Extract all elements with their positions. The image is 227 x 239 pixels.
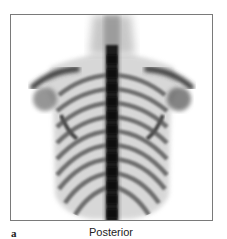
view-label: Posterior xyxy=(80,226,142,238)
bone-scan-image xyxy=(10,14,213,221)
scintigraphy-posterior-thorax xyxy=(11,15,213,221)
panel-label: a xyxy=(11,228,17,239)
